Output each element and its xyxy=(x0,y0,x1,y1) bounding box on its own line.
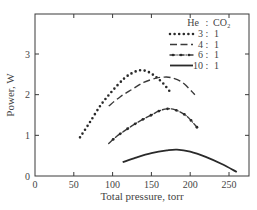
series-marker xyxy=(175,109,178,112)
series-marker xyxy=(166,107,169,110)
series-marker xyxy=(126,127,129,130)
legend-ratio-co2: 1 xyxy=(214,39,219,50)
legend-ratio-he: 4 xyxy=(198,39,203,50)
legend-ratio-co2: 1 xyxy=(214,28,219,39)
x-tick-label: 50 xyxy=(69,179,79,190)
legend-ratio-he: 6 xyxy=(198,49,203,60)
legend-marker xyxy=(172,54,175,57)
legend-ratio-co2: 1 xyxy=(214,60,219,71)
series-marker xyxy=(119,132,122,135)
data-series xyxy=(80,70,237,172)
series-marker xyxy=(112,138,115,141)
x-axis-label: Total pressure, torr xyxy=(100,190,184,202)
legend-header-co2: CO₂ xyxy=(213,17,230,28)
legend-sep: : xyxy=(206,49,209,60)
legend-sep: : xyxy=(206,60,209,71)
series-marker xyxy=(142,118,145,121)
legend-marker xyxy=(180,54,183,57)
series-marker xyxy=(196,126,199,129)
legend-sep: : xyxy=(206,28,209,39)
series-marker xyxy=(190,119,193,122)
legend-header-he: He xyxy=(187,17,199,28)
y-tick-label: 0 xyxy=(25,171,30,182)
x-tick-label: 150 xyxy=(144,179,159,190)
series-line-dotted xyxy=(80,70,171,137)
series-marker xyxy=(150,114,153,117)
x-tick-label: 0 xyxy=(33,179,38,190)
legend-marker xyxy=(188,54,191,57)
chart: 0501001502002500123 He:CO₂3:14:16:110:1 … xyxy=(0,0,257,210)
y-tick-label: 2 xyxy=(25,89,30,100)
legend-ratio-he: 10 xyxy=(193,60,203,71)
y-axis-label: Power, W xyxy=(4,73,16,117)
y-tick-label: 1 xyxy=(25,130,30,141)
legend-sep: : xyxy=(206,39,209,50)
series-marker xyxy=(134,122,137,125)
series-marker xyxy=(183,113,186,116)
x-tick-label: 100 xyxy=(105,179,120,190)
legend-header-sep: : xyxy=(206,17,209,28)
x-tick-label: 200 xyxy=(183,179,198,190)
legend-ratio-he: 3 xyxy=(198,28,203,39)
x-tick-label: 250 xyxy=(222,179,237,190)
y-tick-label: 3 xyxy=(25,49,30,60)
legend: He:CO₂3:14:16:110:1 xyxy=(170,17,230,71)
series-line-solid xyxy=(123,150,237,172)
legend-ratio-co2: 1 xyxy=(214,49,219,60)
series-marker xyxy=(158,110,161,113)
